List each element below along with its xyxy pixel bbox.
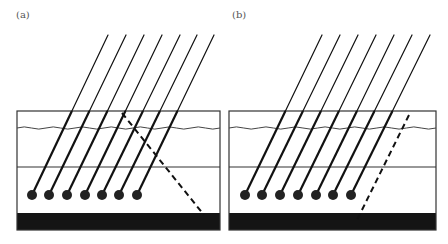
rod-tip-dot-a-1 <box>27 190 37 200</box>
ray-upper-a-2 <box>89 35 126 111</box>
ray-upper-b-5 <box>357 35 394 111</box>
rod-b-3 <box>280 111 321 195</box>
rod-a-5 <box>102 111 143 195</box>
rod-b-5 <box>316 111 357 195</box>
bottom-slab-a <box>17 213 220 230</box>
rod-tip-dot-b-5 <box>311 190 321 200</box>
ray-upper-a-3 <box>107 35 144 111</box>
ray-upper-a-4 <box>125 35 162 111</box>
wavy-surface-line-b <box>229 127 436 129</box>
ray-upper-a-6 <box>160 35 197 111</box>
ray-upper-b-6 <box>374 35 412 111</box>
rod-b-1 <box>245 111 285 195</box>
rod-tip-dot-b-6 <box>328 190 338 200</box>
rod-a-7 <box>137 111 177 195</box>
rod-tip-dot-b-3 <box>275 190 285 200</box>
ray-upper-b-2 <box>303 35 340 111</box>
rod-tip-dot-b-2 <box>257 190 267 200</box>
rod-tip-dot-a-7 <box>132 190 142 200</box>
rod-a-2 <box>49 111 89 195</box>
rod-a-3 <box>67 111 107 195</box>
ray-upper-a-1 <box>72 35 108 111</box>
diagram-canvas <box>0 0 448 244</box>
ray-upper-b-7 <box>392 35 430 111</box>
rod-b-6 <box>333 111 374 195</box>
rod-b-2 <box>262 111 303 195</box>
ray-upper-b-3 <box>321 35 358 111</box>
rod-tip-dot-b-7 <box>346 190 356 200</box>
bottom-slab-b <box>229 213 436 230</box>
rod-a-1 <box>32 111 72 195</box>
ray-upper-b-1 <box>285 35 322 111</box>
ray-upper-b-4 <box>339 35 376 111</box>
rod-a-4 <box>85 111 125 195</box>
rod-tip-dot-a-2 <box>44 190 54 200</box>
rod-b-7 <box>351 111 392 195</box>
rod-tip-dot-a-3 <box>62 190 72 200</box>
rod-tip-dot-a-6 <box>114 190 124 200</box>
rod-tip-dot-b-4 <box>293 190 303 200</box>
rod-b-4 <box>298 111 339 195</box>
ray-upper-a-5 <box>143 35 180 111</box>
rod-tip-dot-a-5 <box>97 190 107 200</box>
rod-tip-dot-b-1 <box>240 190 250 200</box>
ray-upper-a-7 <box>177 35 214 111</box>
rod-tip-dot-a-4 <box>80 190 90 200</box>
